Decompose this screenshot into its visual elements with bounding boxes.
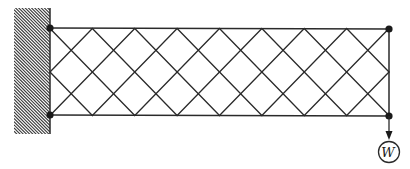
hatch-line xyxy=(14,144,50,169)
hatch-line xyxy=(14,131,50,167)
load-label: W xyxy=(381,145,396,160)
hatch-line xyxy=(14,0,50,20)
hatch-line xyxy=(14,147,50,169)
hatch-line xyxy=(14,0,50,26)
node-top-right xyxy=(385,25,392,32)
hatch-line xyxy=(14,0,50,4)
hatch-line xyxy=(14,138,50,169)
lattice-web xyxy=(50,29,389,116)
hatch-line xyxy=(14,134,50,169)
fixed-wall-support xyxy=(14,0,50,169)
hatch-line xyxy=(14,141,50,169)
arrow-down-icon xyxy=(386,131,393,140)
node-bottom-left xyxy=(46,111,53,118)
load-w: W xyxy=(379,116,400,163)
node-top-left xyxy=(46,24,53,31)
truss-diagram: W xyxy=(0,0,410,169)
hatch-line xyxy=(14,0,50,7)
